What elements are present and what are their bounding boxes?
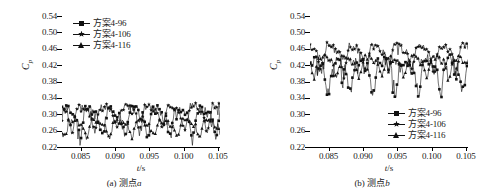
legend-b: 方案4-96 方案4-106 方案4-116: [388, 108, 446, 141]
data-point: [315, 56, 318, 59]
caption-a: (a) 测点a: [0, 176, 248, 189]
x-tick-mark: [81, 147, 82, 151]
data-point: [169, 132, 172, 135]
data-point: [440, 96, 443, 99]
data-point: [160, 111, 163, 114]
x-tick-mark: [466, 147, 467, 151]
data-point: [216, 134, 219, 137]
data-point: [183, 128, 187, 132]
data-point: [124, 133, 127, 136]
data-point: [158, 108, 161, 111]
legend-item: 方案4-116: [73, 40, 131, 51]
data-point: [109, 132, 112, 135]
data-point: [218, 120, 220, 123]
y-tick-mark: [57, 131, 62, 132]
y-tick-label: 0.34: [290, 93, 305, 102]
y-tick-label: 0.38: [42, 77, 57, 86]
x-axis-line-a: [62, 147, 220, 148]
y-tick-label: 0.34: [42, 93, 57, 102]
y-tick-mark: [57, 65, 62, 66]
legend-line-star-icon: [73, 30, 90, 39]
data-point: [404, 61, 407, 64]
data-point: [182, 109, 185, 112]
data-point: [84, 105, 87, 108]
y-tick-mark: [305, 131, 310, 132]
legend-item: 方案4-116: [388, 130, 446, 141]
data-point: [351, 76, 354, 79]
data-point: [156, 104, 159, 107]
caption-b: (b) 测点b: [248, 176, 496, 189]
legend-item: 方案4-96: [73, 18, 131, 29]
data-point: [130, 137, 133, 140]
legend-item: 方案4-106: [73, 29, 131, 40]
data-point: [427, 68, 430, 71]
data-point: [341, 81, 344, 84]
y-tick-label: 0.30: [42, 110, 57, 119]
data-point: [147, 102, 151, 106]
caption-text-a: (a) 测点: [107, 178, 137, 188]
y-tick-label: 0.42: [42, 61, 57, 70]
y-tick-mark: [305, 49, 310, 50]
legend-line-star-icon: [388, 120, 405, 129]
data-point: [381, 74, 384, 77]
figure-two-panel-line-charts: Cp 0.220.260.300.340.380.420.460.500.54 …: [0, 0, 496, 196]
data-point: [372, 89, 375, 92]
data-point: [67, 105, 70, 108]
data-point: [78, 129, 81, 132]
data-point: [313, 78, 316, 81]
y-tick-label: 0.26: [42, 126, 57, 135]
data-point: [166, 103, 170, 107]
data-point: [115, 125, 119, 129]
data-point: [457, 73, 460, 76]
data-point: [394, 95, 397, 98]
data-point: [315, 65, 318, 68]
data-point: [336, 71, 339, 74]
data-point: [425, 60, 428, 63]
data-point: [364, 53, 367, 56]
y-tick-label: 0.38: [290, 77, 305, 86]
y-tick-label: 0.50: [290, 28, 305, 37]
x-tick-mark: [363, 147, 364, 151]
x-tick-mark: [115, 147, 116, 151]
data-point: [438, 88, 441, 91]
x-tick-mark: [432, 147, 433, 151]
data-point: [192, 131, 195, 134]
y-tick-label: 0.46: [42, 44, 57, 53]
data-point: [464, 84, 467, 87]
y-axis-symbol-b: C: [268, 63, 279, 70]
data-point: [446, 79, 449, 82]
data-point: [353, 69, 356, 72]
legend-label: 方案4-116: [93, 40, 130, 51]
y-axis-symbol-a: C: [20, 63, 31, 70]
data-point: [65, 132, 68, 135]
y-axis-label-a: Cp: [20, 60, 34, 70]
data-point: [175, 118, 178, 121]
y-tick-mark: [57, 147, 62, 148]
x-tick-mark: [149, 147, 150, 151]
data-point: [342, 76, 346, 80]
data-point: [80, 137, 83, 140]
data-point: [194, 119, 197, 122]
data-point: [150, 113, 153, 116]
data-point: [372, 47, 376, 51]
y-tick-mark: [305, 147, 310, 148]
data-point: [196, 112, 199, 115]
legend-label: 方案4-106: [408, 119, 446, 130]
data-point: [378, 69, 381, 72]
data-point: [137, 109, 140, 112]
data-point: [135, 105, 138, 108]
legend-line-square-icon: [73, 19, 90, 28]
x-tick-label: 0.105: [198, 152, 238, 161]
data-point: [387, 70, 391, 74]
y-axis-subscript-a: p: [26, 60, 34, 64]
y-tick-label: 0.26: [290, 126, 305, 135]
data-point: [357, 77, 360, 80]
y-tick-label: 0.54: [42, 12, 57, 21]
data-point: [156, 123, 159, 126]
data-point: [423, 68, 426, 71]
legend-label: 方案4-96: [93, 18, 126, 29]
data-point: [383, 68, 386, 71]
data-point: [374, 76, 377, 79]
data-point: [105, 117, 108, 120]
data-point: [148, 134, 151, 137]
